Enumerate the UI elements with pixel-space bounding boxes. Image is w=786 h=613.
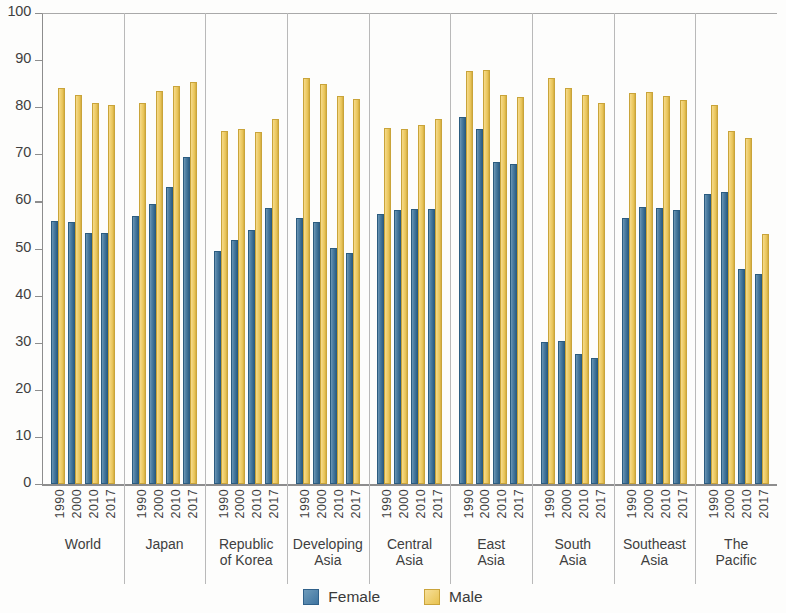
x-axis-year-label: 2010 [495,489,509,518]
x-axis-group-label: World [42,536,124,552]
legend: FemaleMale [0,588,786,606]
x-axis-year-label: 2017 [349,489,363,518]
y-axis-tick-label: 0 [23,474,31,490]
bar-male [565,88,572,484]
bar-female [248,230,255,484]
bar-male [190,82,197,484]
bar-female [639,207,646,484]
x-axis-year-label: 2010 [87,489,101,518]
y-axis-tick-label: 10 [15,427,31,443]
bar-male [173,86,180,484]
bar-male [663,96,670,484]
x-axis-year-label: 2000 [233,489,247,518]
x-axis-year-label: 1990 [380,489,394,518]
bar-female [721,192,728,484]
bar-female [738,269,745,484]
x-axis-year-label: 1990 [462,489,476,518]
x-axis-group-label: Japan [124,536,206,552]
bar-female [101,233,108,484]
bar-female [558,341,565,484]
x-axis-year-label: 2017 [186,489,200,518]
x-axis-year-label: 1990 [53,489,67,518]
group-separator [124,485,125,571]
bar-female [673,210,680,484]
bar-male [221,131,228,484]
bar-female [428,209,435,484]
bar-male [629,93,636,484]
bar-male [500,95,507,484]
x-axis-group-label: South Asia [532,536,614,568]
x-axis-year-label: 2000 [152,489,166,518]
bar-male [762,234,769,484]
x-axis-year-label: 2010 [577,489,591,518]
bar-male [75,95,82,484]
bar-female [214,251,221,484]
y-axis-tick-label: 60 [15,191,31,207]
bar-female [622,218,629,484]
bar-male [466,71,473,484]
bar-female [394,210,401,484]
bar-female [265,208,272,484]
x-axis-year-label: 1990 [135,489,149,518]
legend-swatch-female-icon [303,589,319,605]
x-axis-group-label: Central Asia [369,536,451,568]
x-axis-year-label: 2000 [397,489,411,518]
bar-female [313,222,320,484]
y-axis-tick-label: 40 [15,286,31,302]
y-axis-tick-label: 20 [15,380,31,396]
bar-male [58,88,65,484]
bar-male [139,103,146,485]
y-axis-tick-label: 50 [15,239,31,255]
legend-item-male[interactable]: Male [424,588,483,606]
bar-female [330,248,337,484]
legend-label: Male [449,588,483,606]
x-axis-year-label: 2017 [512,489,526,518]
bar-male [337,96,344,484]
bar-male [680,100,687,484]
bar-male [303,78,310,484]
x-axis-year-label: 2017 [676,489,690,518]
x-axis-year-label: 2017 [594,489,608,518]
x-axis-year-label: 2000 [642,489,656,518]
bar-male [517,97,524,484]
bar-female [166,187,173,484]
x-axis-year-label: 1990 [707,489,721,518]
bar-male [384,128,391,484]
x-axis-year-label: 2010 [250,489,264,518]
x-axis-group-label: Southeast Asia [614,536,696,568]
bar-male [272,119,279,484]
x-axis-labels: 1990200020102017World1990200020102017Jap… [42,485,777,585]
bar-male [582,95,589,484]
x-axis-year-label: 2000 [315,489,329,518]
bar-male [598,103,605,485]
x-axis-year-label: 2017 [757,489,771,518]
bar-male [418,125,425,484]
x-axis-year-label: 2010 [332,489,346,518]
bar-male [255,132,262,484]
legend-item-female[interactable]: Female [303,588,380,606]
bar-female [476,129,483,484]
x-axis-year-label: 1990 [625,489,639,518]
bar-male [156,91,163,484]
bar-chart: 0102030405060708090100 1990200020102017W… [0,0,786,613]
legend-label: Female [328,588,380,606]
bar-female [231,240,238,484]
bar-male [548,78,555,484]
bar-male [711,105,718,484]
bar-female [493,162,500,484]
x-axis-year-label: 1990 [217,489,231,518]
x-axis-year-label: 2000 [478,489,492,518]
x-axis-year-label: 2010 [414,489,428,518]
x-axis-group-label: Republic of Korea [205,536,287,568]
y-axis-tick-label: 70 [15,144,31,160]
bar-female [149,204,156,484]
bar-female [68,222,75,484]
bar-male [108,105,115,484]
bar-female [132,216,139,484]
bar-female [575,354,582,484]
bar-male [483,70,490,484]
x-axis-year-label: 2000 [70,489,84,518]
x-axis-year-label: 2010 [659,489,673,518]
x-axis-year-label: 2017 [104,489,118,518]
bar-male [320,84,327,484]
